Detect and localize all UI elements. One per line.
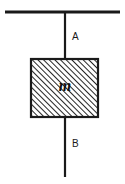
mass-label: m bbox=[49, 78, 81, 94]
string-b-label: B bbox=[72, 139, 79, 149]
string-a-label: A bbox=[72, 32, 79, 42]
physics-diagram-figure: A B m bbox=[0, 0, 125, 184]
